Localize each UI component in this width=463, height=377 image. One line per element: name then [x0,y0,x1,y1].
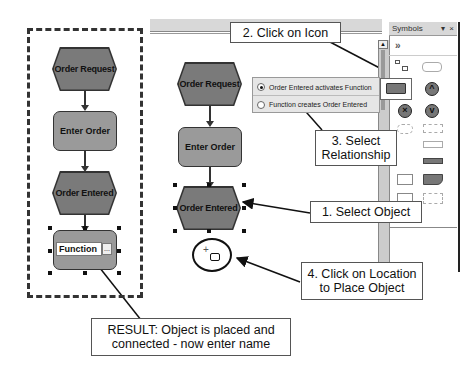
node-label: Enter Order [185,142,235,152]
callout-text: to Place Object [320,281,405,295]
selection-handle[interactable] [242,229,246,233]
radio-selected-icon[interactable] [257,83,265,91]
callout-step-4: 4. Click on Location to Place Object [301,262,423,300]
data-symbol-icon[interactable] [423,174,443,185]
callout-text: 2. Click on Icon [243,26,328,40]
expand-icon[interactable]: » [395,40,401,51]
relationship-option-activates[interactable]: Order Entered activates Function [253,79,379,96]
selection-handle[interactable] [173,206,177,210]
selection-handle[interactable] [173,183,177,187]
function-enter-order[interactable]: Enter Order [178,127,242,167]
selection-handle[interactable] [242,183,246,187]
option-label: Function creates Order Entered [269,101,367,108]
event-order-entered-selected[interactable]: Order Entered [178,188,240,229]
function-cursor-icon [210,253,220,261]
panel-toolbar: » [389,36,457,56]
filled-bar-symbol-icon[interactable] [423,158,443,164]
selection-handle[interactable] [83,271,87,275]
event-symbol-icon[interactable] [422,62,442,72]
symbols-panel-header: Symbols ▾ × [389,22,457,36]
crosshair-icon: + [203,244,209,255]
callout-text: Relationship [322,148,391,162]
and-operator-icon[interactable]: ^ [425,82,439,96]
process-interface-icon[interactable] [397,124,413,134]
callout-text: 3. Select [332,134,381,148]
callout-text: 4. Click on Location [307,267,416,281]
callout-step-3: 3. Select Relationship [315,130,397,166]
selection-handle[interactable] [117,271,121,275]
selection-handle[interactable] [48,271,52,275]
event-order-request[interactable]: Order Request [179,64,241,105]
dashed-rect-symbol-icon[interactable] [423,124,443,133]
edit-name-button[interactable]: ... [102,243,112,255]
callout-step-1: 1. Select Object [310,201,422,223]
node-label: Order Entered [56,188,114,198]
selection-handle[interactable] [207,183,211,187]
selection-handle[interactable] [48,249,52,253]
callout-text: 1. Select Object [322,205,410,219]
selection-handle[interactable] [48,226,52,230]
selection-handle[interactable] [117,226,121,230]
function-name-input[interactable]: Function [56,242,102,256]
event-order-entered[interactable]: Order Entered [54,173,116,214]
node-label: Order Entered [180,203,238,213]
node-label: Order Request [180,79,240,89]
option-label: Order Entered activates Function [269,84,372,91]
document-symbol-icon[interactable] [397,174,413,185]
node-label: Enter Order [60,126,110,136]
relationship-popup: Order Entered activates Function Functio… [252,77,380,113]
connector-symbol-icon[interactable] [395,60,409,72]
xor-operator-icon[interactable]: × [398,104,412,118]
rect-symbol-icon[interactable] [423,141,443,148]
connector [209,167,211,183]
selection-handle[interactable] [117,249,121,253]
dashed-box-symbol-icon[interactable] [423,193,443,204]
function-symbol-icon[interactable] [386,83,406,94]
callout-text: connected - now enter name [112,337,270,351]
close-icon[interactable]: × [449,22,454,36]
selection-handle[interactable] [207,229,211,233]
panel-divider [389,227,457,228]
scroll-up-icon[interactable]: ▲ [378,40,388,49]
or-operator-icon[interactable]: v [425,104,439,118]
callout-text: RESULT: Object is placed and [107,323,274,337]
function-enter-order[interactable]: Enter Order [53,111,117,151]
callout-step-2: 2. Click on Icon [230,22,341,43]
callout-result: RESULT: Object is placed and connected -… [91,318,291,356]
pin-dropdown-icon[interactable]: ▾ [441,22,445,36]
relationship-option-creates[interactable]: Function creates Order Entered [253,96,379,113]
radio-unselected-icon[interactable] [257,101,265,109]
node-label: Order Request [55,64,115,74]
selection-handle[interactable] [242,206,246,210]
selection-handle[interactable] [173,229,177,233]
panel-title: Symbols [392,24,423,33]
selection-handle[interactable] [83,226,87,230]
event-order-request[interactable]: Order Request [54,49,116,90]
